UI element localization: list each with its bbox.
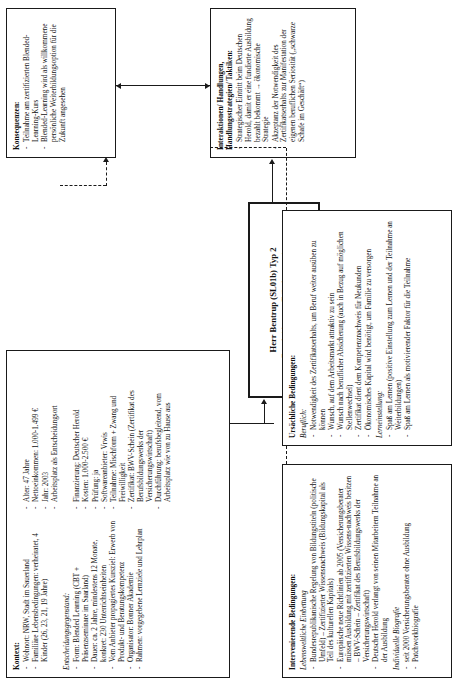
list-item: Wohnort: NRW, Stadt im Sauerland: [23, 520, 32, 670]
kontext-list-right: Alter: 47 Jahre Nettoeinkommen: 1.000-1.…: [23, 360, 60, 510]
list-item: Strategischer Eintritt beim Deutschen He…: [236, 16, 271, 150]
konsequenzen-box: Konsequenzen: Teilnahme am zertifizierte…: [6, 8, 116, 158]
list-item: Alter: 47 Jahre: [23, 360, 32, 510]
dashed-konsequenzen-feedback-v: [60, 185, 106, 186]
arrowhead-up-konsequenzen: [116, 84, 121, 90]
list-item: Patchworkbiografie: [412, 472, 421, 670]
list-item: Rahmen: vorgegebene Lernziele und Lehrpl…: [136, 520, 145, 670]
intervenierende-sub-2: Individuelle Biografie: [393, 472, 402, 670]
list-item: Akzeptanz der Notwendigkeit des Zertifik…: [272, 16, 307, 150]
konsequenzen-header: Konsequenzen:: [12, 16, 21, 150]
diagram-canvas: Kontext: Wohnort: NRW, Stadt im Sauerlan…: [0, 0, 460, 686]
connector-kontext-vertical: [230, 423, 264, 424]
intervenierende-list-1: Bundesrepublikanische Regelung von Bildu…: [310, 472, 390, 670]
list-item: Wunsch nach beruflicher Absicherung (auc…: [337, 218, 355, 438]
connector-ursaechliche-vertical: [264, 423, 274, 424]
list-item: Spaß am Lernen als motivierender Faktor …: [404, 218, 413, 438]
list-item: Deutscher Herold verlangt von seinen Mit…: [372, 472, 390, 670]
connector-center-to-interaktionen: [272, 164, 273, 202]
ursaechliche-list-1: Notwendigkeit des Zertifikatserhalts, um…: [310, 218, 373, 438]
dashed-konsequenzen-feedback-h: [106, 162, 107, 186]
list-item: Zertifikat: BWV-Schein (Zertifikat des B…: [128, 360, 154, 510]
arrowhead-center-to-interaktionen: [269, 159, 275, 164]
intervenierende-header: Intervenierende Bedingungen:: [288, 472, 297, 670]
interaktionen-box: Interaktionen/ Handlungen, Handlungsstra…: [210, 8, 356, 158]
dashed-vertical-to-interaktionen: [210, 147, 286, 148]
ursaechliche-sub-1: Beruflich:: [300, 218, 309, 438]
ursaechliche-sub-2: Lerneinstellung:: [376, 218, 385, 438]
kontext-list-left: Wohnort: NRW, Stadt im Sauerland Familiä…: [23, 520, 60, 670]
intervenierende-sub-1: Lebensweltliche Einbettung: [300, 472, 309, 670]
list-item: Blended-Learning wird als willkommene pe…: [41, 16, 67, 150]
list-item: Familiäre Lebensbedingungen: verheiratet…: [32, 520, 50, 670]
entscheidungsgegenstand-subhead: Entscheidungsgegenstand:: [63, 358, 72, 670]
kontext-box: Kontext: Wohnort: NRW, Stadt im Sauerlan…: [6, 350, 230, 678]
list-item: Dauer: ca. 2 Jahre, mindestens 12 Monate…: [91, 520, 109, 670]
ursaechliche-bedingungen-box: Ursächliche Bedingungen: Beruflich: Notw…: [282, 210, 452, 446]
interaktionen-list: Strategischer Eintritt beim Deutschen He…: [236, 16, 307, 150]
ursaechliche-list-2: Spaß am Lernen (positive Einstellung zum…: [386, 218, 413, 438]
list-item: Vom Anbieter propagiertes Kursziel: Erwe…: [109, 520, 127, 670]
arrowhead-konsequenzen-feedback: [103, 157, 109, 162]
list-item: Form: Blended Learning (CBT + Präsenzsem…: [73, 520, 91, 670]
list-item: Kosten: 1.000-2.500 €: [82, 360, 91, 510]
list-item: Prüfung: ja: [92, 360, 101, 510]
connector-interaktionen-konsequenzen: [116, 85, 210, 86]
dashed-ursaechliche-to-right: [286, 148, 287, 210]
diagram-rotated-layer: Kontext: Wohnort: NRW, Stadt im Sauerlan…: [0, 0, 460, 686]
interaktionen-header: Interaktionen/ Handlungen, Handlungsstra…: [216, 16, 234, 150]
list-item: Zertifikat dient dem Kompetenznachweis f…: [355, 218, 364, 438]
gegenstand-list-right: Finanzierung: Deutscher Herold Kosten: 1…: [73, 360, 173, 510]
intervenierende-list-2: seit 2000 Versicherungsberater ohne Ausb…: [403, 472, 421, 670]
gegenstand-list-left: Form: Blended Learning (CBT + Präsenzsem…: [73, 520, 173, 670]
list-item: Bundesrepublikanische Regelung von Bildu…: [310, 472, 336, 670]
arrowhead-down-interaktionen: [205, 84, 210, 90]
list-item: Nettoeinkommen: 1.000-1.499 €: [32, 360, 41, 510]
list-item: Arbeitsplatz als Entscheidungsort: [51, 360, 60, 510]
connector-kontext-horizontal: [264, 404, 265, 424]
list-item: Jahr: 2003: [42, 360, 51, 510]
dashed-intervenierende-to-ursaechliche: [286, 446, 287, 464]
list-item: Softwareanbieter: Vrwis: [101, 360, 110, 510]
list-item: Teilnahme am zertifizierten Blended-Lear…: [23, 16, 41, 150]
kontext-header: Kontext:: [12, 358, 21, 670]
konsequenzen-list: Teilnahme am zertifizierten Blended-Lear…: [23, 16, 67, 150]
intervenierende-bedingungen-box: Intervenierende Bedingungen: Lebensweltl…: [282, 464, 452, 678]
list-item: Notwendigkeit des Zertifikatserhalts, um…: [310, 218, 328, 438]
list-item: seit 2000 Versicherungsberater ohne Ausb…: [403, 472, 412, 670]
list-item: Durchführung: berufsbegleitend, vom Arbe…: [155, 360, 173, 510]
list-item: Finanzierung: Deutscher Herold: [73, 360, 82, 510]
ursaechliche-header: Ursächliche Bedingungen:: [288, 218, 297, 438]
list-item: Teilnahme: Mischform + Zwang und Freiwil…: [110, 360, 128, 510]
list-item: Europäische neue Richtlinien ab 2005 (Ve…: [337, 472, 372, 670]
arrowhead-kontext-to-center: [261, 399, 267, 404]
central-title: Herr Bentrup (SL01b) Typ 2: [268, 247, 278, 352]
list-item: Wunsch, auf dem Arbeitsmarkt attraktiv z…: [328, 218, 337, 438]
list-item: Organisator: Bonner Akademie: [127, 520, 136, 670]
list-item: Spaß am Lernen (positive Einstellung zum…: [386, 218, 404, 438]
list-item: Ökonomisches Kapital wird benötigt, um F…: [365, 218, 374, 438]
